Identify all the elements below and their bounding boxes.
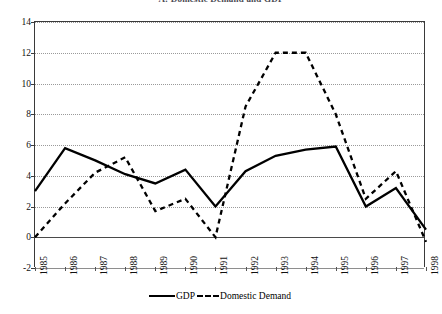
y-axis-tick-label-4: 4 (5, 171, 31, 181)
y-axis-tick-label-2: 2 (5, 202, 31, 212)
x-axis-tick-label-1998: 1998 (430, 256, 440, 275)
legend-label-gdp: GDP (176, 291, 197, 301)
plot-inner: 14121086420-2198519861987198819891990199… (35, 22, 424, 267)
y-axis-tick-label--2: -2 (5, 263, 31, 273)
chart-title: A: Domestic Demand and GDP (0, 0, 442, 4)
legend-item-domestic-demand[interactable]: Domestic Demand (197, 291, 293, 301)
chart-legend: GDP Domestic Demand (0, 291, 442, 301)
legend-line-dashed-icon (197, 295, 219, 297)
plot-area: 14121086420-2198519861987198819891990199… (34, 21, 425, 267)
x-axis-tick-mark-1998 (426, 267, 427, 271)
y-axis-tick-label-10: 10 (5, 79, 31, 89)
legend-line-solid-icon (149, 295, 175, 297)
series-canvas (35, 22, 426, 268)
series-line-domestic-demand (35, 53, 426, 242)
legend-item-gdp[interactable]: GDP (149, 291, 197, 301)
series-line-gdp (35, 147, 426, 230)
y-axis-tick-label-8: 8 (5, 109, 31, 119)
y-axis-tick-label-14: 14 (5, 17, 31, 27)
legend-label-domestic-demand: Domestic Demand (220, 291, 293, 301)
y-axis-tick-label-12: 12 (5, 48, 31, 58)
chart-root: A: Domestic Demand and GDP 14121086420-2… (0, 0, 442, 314)
y-axis-tick-label-0: 0 (5, 232, 31, 242)
y-axis-tick-label-6: 6 (5, 140, 31, 150)
